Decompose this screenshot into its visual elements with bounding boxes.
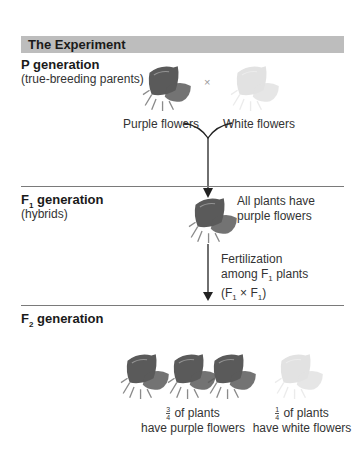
- p-generation-subtitle: (true-breeding parents): [21, 72, 144, 86]
- f1-result-text: All plants have purple flowers: [237, 194, 315, 224]
- purple-flower-icon: [140, 62, 196, 112]
- purple-flower-icon: [186, 194, 242, 244]
- divider: [21, 186, 344, 187]
- cross-arrow: [180, 118, 240, 200]
- white-flower-icon: [228, 62, 284, 112]
- p-generation-title: P generation: [21, 57, 100, 72]
- f2-generation-title: F2 generation: [21, 311, 103, 329]
- header-bar: The Experiment: [21, 36, 344, 53]
- fertilization-text: Fertilization among F1 plants (F1 × F1): [221, 252, 308, 306]
- divider: [21, 305, 344, 306]
- cross-symbol: ×: [204, 76, 210, 88]
- purple-flower-icon: [205, 350, 261, 400]
- white-flower-icon: [272, 350, 328, 400]
- header-title: The Experiment: [28, 37, 126, 52]
- down-arrow: [200, 244, 216, 302]
- f1-generation-subtitle: (hybrids): [21, 207, 68, 221]
- purple-ratio-text: 34 of plants have purple flowers: [128, 406, 258, 436]
- white-ratio-text: 14 of plants have white flowers: [244, 406, 360, 436]
